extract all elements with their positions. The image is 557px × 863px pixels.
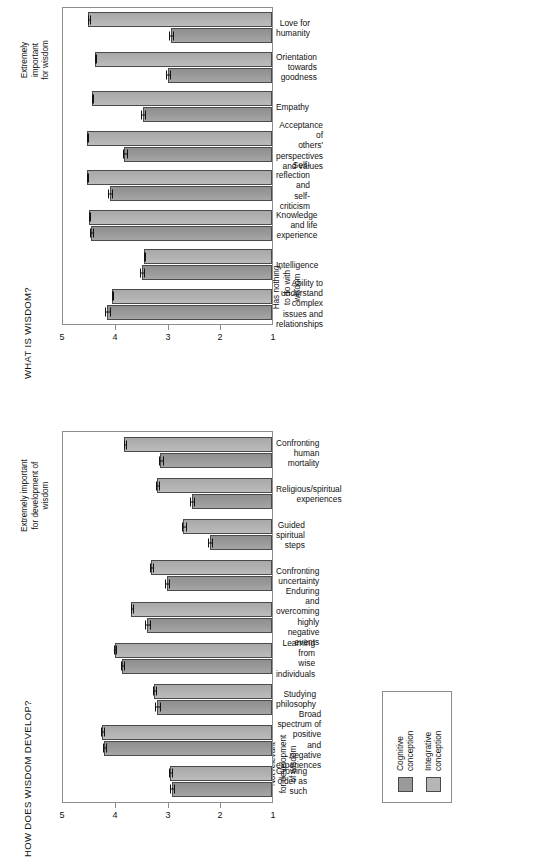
y-tick-label: 5 — [59, 810, 64, 820]
error-bar — [87, 177, 89, 178]
error-bar — [159, 460, 164, 461]
bar-group-container-panel2 — [63, 8, 272, 324]
bar-integrative-conception — [102, 725, 272, 740]
error-bar — [105, 312, 110, 313]
category-label: Empathy — [276, 87, 426, 127]
y-tick-mark — [168, 803, 169, 808]
bar-group — [63, 514, 272, 555]
bar-group — [63, 596, 272, 637]
y-tick-label: 1 — [270, 810, 275, 820]
bar-group — [63, 8, 272, 48]
bar-integrative-conception — [170, 766, 272, 781]
error-bar — [170, 789, 175, 790]
bar-group — [63, 245, 272, 285]
error-bar — [153, 691, 157, 692]
bar-group — [63, 432, 272, 473]
bar-cognitive-conception — [167, 576, 273, 591]
error-bar — [92, 98, 94, 99]
y-tick-label: 3 — [165, 810, 170, 820]
category-label-text: Intelligence — [276, 260, 318, 270]
bar-group — [63, 48, 272, 88]
error-bar — [108, 193, 113, 194]
category-label-text: Orientation towards goodness — [276, 52, 317, 83]
bar-group — [63, 555, 272, 596]
error-bar — [150, 567, 154, 568]
category-label-text: Guided spiritual steps — [276, 519, 305, 550]
panel-what-is-wisdom: WHAT IS WISDOM? Has nothing to do with w… — [0, 0, 557, 385]
category-label-text: Studying philosophy — [276, 689, 316, 709]
category-labels-panel2: Ability to understand complex issues and… — [276, 8, 426, 324]
category-label: Guided spiritual steps — [276, 514, 426, 555]
y-tick-label: 5 — [59, 332, 64, 342]
scale-anchor-high-panel2: Extremely important for wisdom — [20, 5, 52, 115]
y-tick-mark — [220, 325, 221, 330]
bar-integrative-conception — [95, 52, 272, 67]
error-bar — [140, 272, 145, 273]
bar-integrative-conception — [88, 12, 272, 27]
legend-swatch-integrative — [426, 777, 441, 792]
error-bar — [87, 138, 89, 139]
category-label-text: Empathy — [276, 102, 309, 112]
category-label-text: Growing older as such — [276, 766, 307, 797]
category-label-text: Religious/spiritual experiences — [276, 483, 342, 503]
bar-cognitive-conception — [110, 186, 272, 201]
legend-label-cognitive: Cognitive conception — [395, 730, 415, 771]
category-label-text: Acceptance of others' perspectives and v… — [276, 121, 323, 172]
bar-cognitive-conception — [143, 107, 272, 122]
category-label-text: Ability to understand complex issues and… — [276, 279, 323, 330]
error-bar — [131, 609, 134, 610]
bar-group — [63, 206, 272, 246]
error-bar — [95, 59, 97, 60]
category-label: Confronting human mortality — [276, 432, 426, 473]
bar-group — [63, 285, 272, 325]
legend-label-integrative: Integrative conception — [423, 730, 443, 771]
error-bar — [166, 75, 171, 76]
error-bar — [144, 256, 146, 257]
legend-box: Cognitive conception Integrative concept… — [382, 691, 452, 803]
error-bar — [169, 35, 174, 36]
error-bar — [190, 501, 195, 502]
bar-cognitive-conception — [107, 305, 272, 320]
bar-integrative-conception — [115, 643, 272, 658]
bar-integrative-conception — [144, 249, 272, 264]
bar-cognitive-conception — [160, 453, 272, 468]
error-bar — [90, 233, 94, 234]
category-label: Confronting uncertainty — [276, 555, 426, 596]
error-bar — [89, 217, 91, 218]
bar-cognitive-conception — [171, 28, 272, 43]
bar-cognitive-conception — [122, 659, 272, 674]
legend-item-integrative: Integrative conception — [423, 730, 443, 792]
bar-cognitive-conception — [104, 741, 272, 756]
y-tick-mark — [220, 803, 221, 808]
legend-item-cognitive: Cognitive conception — [395, 730, 415, 792]
bar-integrative-conception — [87, 170, 272, 185]
error-bar — [156, 485, 160, 486]
category-label: Love for humanity — [276, 8, 426, 48]
y-tick-label: 3 — [165, 332, 170, 342]
y-tick-label: 2 — [218, 332, 223, 342]
error-bar — [155, 707, 160, 708]
y-tick-label: 4 — [112, 810, 117, 820]
error-bar — [112, 296, 114, 297]
category-label: Religious/spiritual experiences — [276, 473, 426, 514]
error-bar — [145, 625, 150, 626]
error-bar — [123, 154, 128, 155]
bar-integrative-conception — [124, 437, 272, 452]
error-bar — [103, 748, 107, 749]
error-bar — [165, 583, 170, 584]
bar-group — [63, 87, 272, 127]
bar-cognitive-conception — [172, 782, 272, 797]
category-label: Self-reflection and self-criticism — [276, 166, 426, 206]
legend-swatch-cognitive — [398, 777, 413, 792]
error-bar — [114, 650, 117, 651]
bar-integrative-conception — [151, 560, 272, 575]
bar-group — [63, 720, 272, 761]
bar-integrative-conception — [112, 289, 272, 304]
category-label: Orientation towards goodness — [276, 48, 426, 88]
y-tick-mark — [168, 325, 169, 330]
bar-cognitive-conception — [192, 494, 272, 509]
bar-group-container-panel1 — [63, 432, 272, 802]
panel-title-what-is-wisdom: WHAT IS WISDOM? — [22, 287, 33, 379]
bar-cognitive-conception — [168, 68, 272, 83]
bar-cognitive-conception — [157, 700, 272, 715]
